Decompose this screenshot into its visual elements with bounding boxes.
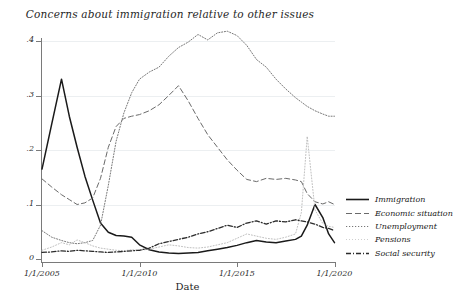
x-axis-label: Date bbox=[0, 281, 375, 292]
gridline-02 bbox=[42, 150, 335, 151]
y-tick-mark bbox=[36, 150, 41, 151]
legend-key-dashed-icon bbox=[345, 208, 370, 219]
x-tick-mark bbox=[237, 262, 238, 267]
y-tick-label: .4 bbox=[6, 35, 34, 44]
legend-key-lightdot-icon bbox=[345, 234, 370, 245]
legend-label: Pensions bbox=[370, 235, 411, 244]
legend-item-economic-situation[interactable]: Economic situation bbox=[345, 206, 457, 219]
series-line-social-security bbox=[42, 220, 335, 253]
legend-item-immigration[interactable]: Immigration bbox=[345, 193, 457, 206]
chart-figure: Concerns about immigration relative to o… bbox=[0, 0, 457, 292]
legend-label: Unemployment bbox=[370, 222, 437, 231]
y-tick-mark bbox=[36, 96, 41, 97]
legend-key-solid-icon bbox=[345, 194, 370, 205]
y-tick-label: .2 bbox=[6, 144, 34, 153]
legend-label: Economic situation bbox=[370, 209, 453, 218]
legend-label: Social security bbox=[370, 249, 435, 258]
y-tick-label: 0 bbox=[6, 253, 34, 262]
gridline-04 bbox=[42, 41, 335, 42]
y-tick-label: .3 bbox=[6, 90, 34, 99]
series-line-economic-situation bbox=[42, 86, 335, 205]
gridline-03 bbox=[42, 96, 335, 97]
x-tick-label: 1/1/2005 bbox=[7, 269, 77, 278]
chart-legend: Immigration Economic situation Unemploym… bbox=[345, 193, 457, 260]
legend-item-unemployment[interactable]: Unemployment bbox=[345, 220, 457, 233]
series-line-immigration bbox=[42, 79, 335, 253]
legend-label: Immigration bbox=[370, 195, 425, 204]
x-tick-label: 1/1/2015 bbox=[202, 269, 272, 278]
x-tick-mark bbox=[42, 262, 43, 267]
legend-key-dotted-icon bbox=[345, 221, 370, 232]
legend-item-pensions[interactable]: Pensions bbox=[345, 233, 457, 246]
x-tick-mark bbox=[335, 262, 336, 267]
series-line-unemployment bbox=[42, 31, 335, 244]
y-tick-mark bbox=[36, 259, 41, 260]
legend-item-social-security[interactable]: Social security bbox=[345, 247, 457, 260]
series-line-pensions bbox=[42, 136, 335, 250]
x-tick-mark bbox=[140, 262, 141, 267]
x-tick-label: 1/1/2020 bbox=[300, 269, 370, 278]
y-tick-label: .1 bbox=[6, 199, 34, 208]
y-axis-line bbox=[41, 38, 42, 262]
y-tick-mark bbox=[36, 205, 41, 206]
x-tick-label: 1/1/2010 bbox=[105, 269, 175, 278]
chart-title: Concerns about immigration relative to o… bbox=[0, 8, 340, 20]
x-axis-line bbox=[41, 262, 335, 263]
legend-key-dashdot-icon bbox=[345, 248, 370, 259]
gridline-01 bbox=[42, 205, 335, 206]
y-tick-mark bbox=[36, 41, 41, 42]
